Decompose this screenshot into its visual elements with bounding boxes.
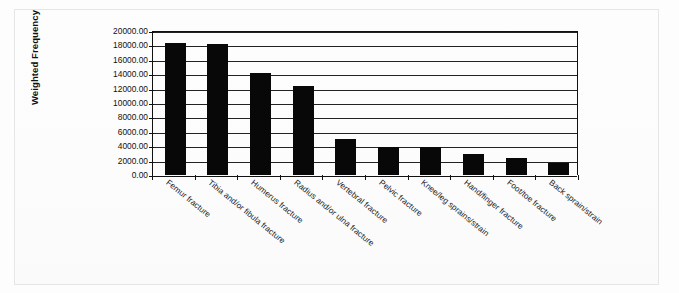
y-tick-mark [149, 46, 154, 47]
x-axis-category-labels: Femur fractureTibia and/or fibula fractu… [152, 178, 612, 288]
y-tick-label: 14000.00 [60, 70, 148, 78]
y-tick-label: 2000.00 [60, 157, 148, 165]
y-tick-label: 16000.00 [60, 56, 148, 64]
chart-figure: Weighted Frequency 20000.0018000.0016000… [0, 0, 679, 293]
y-tick-label: 8000.00 [60, 113, 148, 121]
bar [378, 147, 399, 175]
y-axis-title: Weighted Frequency [29, 0, 40, 118]
y-tick-label: 6000.00 [60, 128, 148, 136]
y-tick-mark [149, 90, 154, 91]
y-tick-label: 4000.00 [60, 142, 148, 150]
y-tick-mark [149, 133, 154, 134]
y-tick-label: 18000.00 [60, 41, 148, 49]
y-tick-mark [149, 61, 154, 62]
x-category-label: Knee/leg sprains/strain [420, 178, 491, 238]
y-tick-label: 12000.00 [60, 85, 148, 93]
y-tick-mark [149, 118, 154, 119]
y-tick-mark [149, 32, 154, 33]
bar [207, 44, 228, 175]
bar [548, 163, 569, 175]
bar [506, 158, 527, 175]
bar [165, 43, 186, 175]
y-tick-mark [149, 147, 154, 148]
x-category-label: Back sprain/strain [548, 178, 605, 227]
y-tick-label: 20000.00 [60, 27, 148, 35]
bar [335, 139, 356, 175]
x-category-label: Femur fracture [164, 178, 212, 219]
plot-area [152, 31, 578, 175]
bar [293, 86, 314, 175]
x-category-label: Tibia and/or fibula fracture [207, 178, 287, 246]
y-tick-mark [149, 75, 154, 76]
bar [250, 73, 271, 175]
x-category-label: Pelvic fracture [377, 178, 424, 218]
bar [463, 154, 484, 175]
y-tick-label: 10000.00 [60, 99, 148, 107]
bar [420, 147, 441, 175]
y-tick-label: 0.00 [60, 171, 148, 179]
gridline [153, 32, 577, 33]
x-category-label: Radius and/or ulna fracture [292, 178, 375, 248]
y-tick-mark [149, 162, 154, 163]
y-tick-mark [149, 104, 154, 105]
